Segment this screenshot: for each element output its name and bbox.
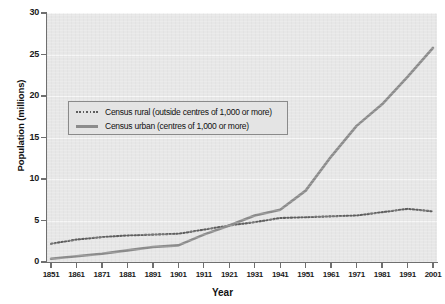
x-tick (50, 263, 51, 268)
solid-line-icon (75, 121, 99, 131)
x-tick (305, 263, 306, 268)
legend-item-rural: Census rural (outside centres of 1,000 o… (75, 105, 281, 119)
x-tick (330, 263, 331, 268)
x-tick (178, 263, 179, 268)
x-tick (152, 263, 153, 268)
y-tick-label: 30 (15, 7, 39, 17)
y-tick (41, 137, 46, 138)
y-tick (41, 178, 46, 179)
y-tick (41, 95, 46, 96)
x-tick (432, 263, 433, 268)
y-axis-line (46, 12, 47, 263)
x-tick (356, 263, 357, 268)
x-tick-label: 2001 (413, 270, 445, 279)
series-lines (47, 13, 437, 262)
plot-area (47, 13, 437, 262)
series-path (51, 48, 433, 259)
series-path (51, 209, 433, 244)
legend: Census rural (outside centres of 1,000 o… (68, 101, 288, 135)
x-tick (407, 263, 408, 268)
legend-label-rural: Census rural (outside centres of 1,000 o… (105, 107, 272, 117)
x-tick (254, 263, 255, 268)
x-axis-line (46, 262, 438, 263)
y-axis-title: Population (millions) (15, 46, 26, 206)
y-tick (41, 54, 46, 55)
y-tick-label: 0 (15, 256, 39, 266)
y-tick (41, 12, 46, 13)
legend-label-urban: Census urban (centres of 1,000 or more) (105, 121, 249, 131)
x-tick (229, 263, 230, 268)
x-tick (76, 263, 77, 268)
dotted-line-icon (75, 107, 99, 117)
x-tick (203, 263, 204, 268)
population-line-chart: 051015202530 185118611871188118911901191… (0, 0, 445, 304)
x-tick (280, 263, 281, 268)
y-tick (41, 220, 46, 221)
x-axis-title: Year (0, 287, 445, 298)
x-tick (101, 263, 102, 268)
y-tick-label: 5 (15, 215, 39, 225)
legend-item-urban: Census urban (centres of 1,000 or more) (75, 119, 281, 133)
x-tick (381, 263, 382, 268)
x-tick (127, 263, 128, 268)
y-tick (41, 261, 46, 262)
